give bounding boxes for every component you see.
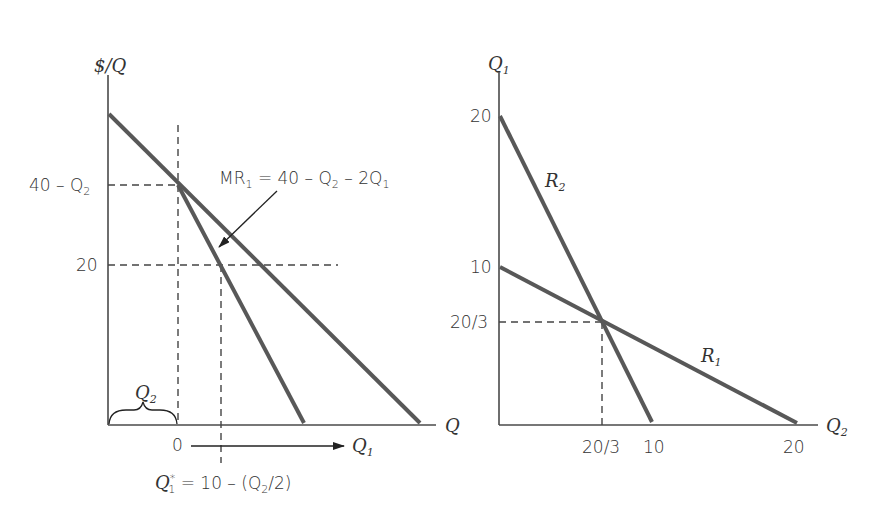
q2-brace [109,402,177,424]
r2-label: R2 [544,170,566,194]
r2-reaction-curve [500,116,652,422]
r1-label: R1 [700,345,722,369]
left-x-axis-label: Q [445,415,460,436]
right-x-tick-20-3: 20/3 [582,437,620,457]
shifted-origin-label: 0 [172,435,183,455]
diagram-canvas: $/Q Q 40 – Q2 20 MR1 = 40 – Q2 – 2Q1 Q2 … [0,0,875,519]
mr1-curve [178,185,304,423]
brace-label: Q2 [135,382,157,406]
right-y-tick-10: 10 [470,257,492,277]
y-tick-40-minus-q2: 40 – Q2 [29,175,90,198]
right-y-tick-20: 20 [470,106,492,126]
left-y-axis-label: $/Q [94,55,127,76]
right-panel: Q1 Q2 20 10 20/3 20/3 10 20 R2 R1 [450,53,848,457]
q1-arrow-label: Q1 [352,435,374,459]
right-x-tick-20: 20 [783,437,805,457]
right-y-tick-20-3: 20/3 [450,312,488,332]
demand-curve [109,114,420,423]
mr1-pointer-arrow [219,191,277,247]
right-x-tick-10: 10 [643,437,665,457]
mr1-equation-label: MR1 = 40 – Q2 – 2Q1 [219,168,389,191]
right-x-axis-label: Q2 [826,415,848,439]
left-panel: $/Q Q 40 – Q2 20 MR1 = 40 – Q2 – 2Q1 Q2 … [29,55,460,496]
q1-star-equation-label: Q*1 = 10 – (Q2/2) [155,472,291,496]
y-tick-20: 20 [76,255,98,275]
r1-reaction-curve [500,267,797,423]
